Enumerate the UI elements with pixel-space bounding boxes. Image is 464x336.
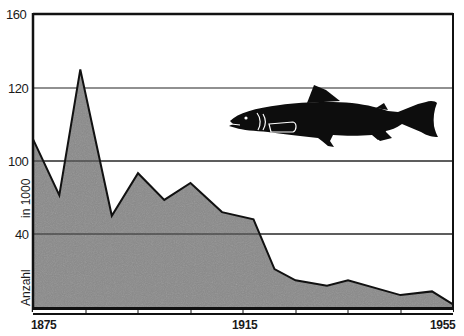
y-tick-40: 40 [15, 227, 28, 242]
y-axis-unit: in 1000 [19, 179, 33, 218]
salmon-icon [229, 85, 438, 147]
x-tick-1955: 1955 [430, 318, 456, 332]
y-tick-100: 100 [8, 154, 28, 169]
y-tick-160: 160 [6, 7, 26, 22]
x-axis-bar [33, 307, 453, 315]
x-tick-1875: 1875 [31, 318, 57, 332]
y-tick-120: 120 [8, 81, 28, 96]
y-axis-title: Anzahl [19, 269, 33, 306]
salmon-catch-area-chart [0, 0, 464, 336]
x-tick-1915: 1915 [232, 318, 258, 332]
area-series-fill [33, 70, 453, 309]
